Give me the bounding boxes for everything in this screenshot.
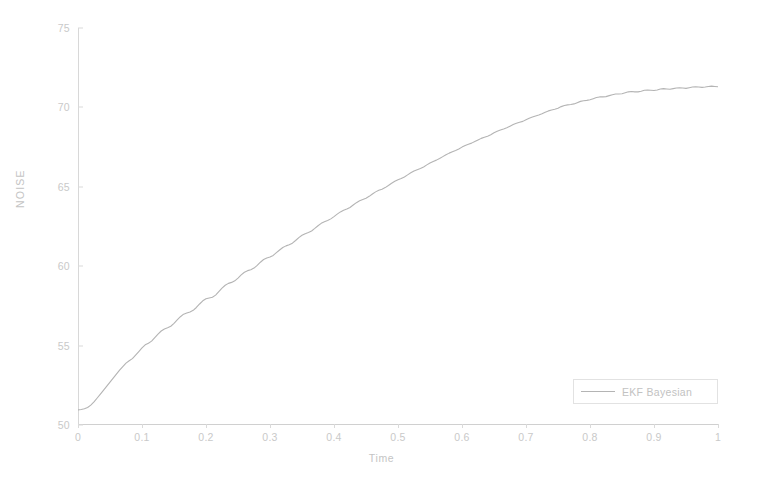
x-tick-label: 0.6 xyxy=(454,431,470,443)
legend-line-swatch xyxy=(581,391,615,392)
series-canvas xyxy=(78,28,718,425)
y-tick-label: 50 xyxy=(58,419,70,431)
x-tick-label: 0.7 xyxy=(518,431,534,443)
y-tick-label: 75 xyxy=(58,22,70,34)
series-line xyxy=(78,86,718,410)
y-tick-label: 60 xyxy=(58,260,70,272)
y-tick-label: 70 xyxy=(58,101,70,113)
x-tick-label: 0 xyxy=(75,431,81,443)
y-axis-tick-labels: 757065605550 xyxy=(38,28,70,425)
x-tick-label: 0.8 xyxy=(582,431,598,443)
x-tick-label: 0.9 xyxy=(646,431,662,443)
x-tick-label: 0.2 xyxy=(198,431,214,443)
x-tick-mark xyxy=(718,424,719,428)
chart-figure: 757065605550 00.10.20.30.40.50.60.70.80.… xyxy=(0,0,763,494)
y-axis-title: NOISE xyxy=(14,169,26,208)
x-tick-label: 0.1 xyxy=(134,431,150,443)
legend-label: EKF Bayesian xyxy=(622,386,692,398)
x-axis-tick-labels: 00.10.20.30.40.50.60.70.80.91 xyxy=(78,431,718,447)
x-tick-label: 0.3 xyxy=(262,431,278,443)
plot-area xyxy=(78,28,718,425)
legend: EKF Bayesian xyxy=(573,379,718,404)
x-tick-label: 0.4 xyxy=(326,431,342,443)
y-tick-label: 65 xyxy=(58,181,70,193)
x-axis-title: Time xyxy=(0,452,763,464)
x-tick-label: 1 xyxy=(715,431,721,443)
y-tick-label: 55 xyxy=(58,340,70,352)
x-tick-label: 0.5 xyxy=(390,431,406,443)
